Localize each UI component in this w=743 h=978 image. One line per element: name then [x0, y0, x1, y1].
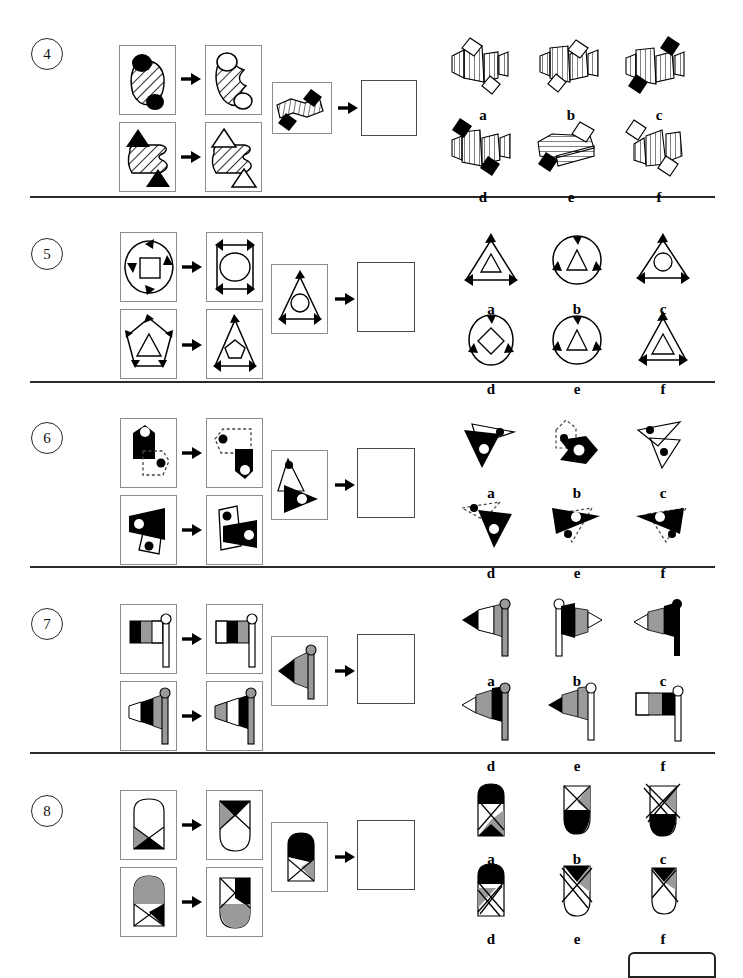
p4-option-e-label: e	[532, 189, 610, 206]
p7-option-e-figure	[538, 679, 616, 757]
p6-option-e[interactable]: e	[538, 486, 616, 582]
p7-example2-input	[120, 681, 177, 751]
p5-arrow-2	[181, 336, 203, 354]
p5-example1-input	[120, 232, 177, 302]
p6-arrow-1	[181, 444, 203, 462]
p4-option-e[interactable]: e	[532, 110, 610, 206]
p6-arrow-2	[181, 521, 203, 539]
p7-option-b[interactable]: b	[538, 594, 616, 690]
question-number-5: 5	[31, 238, 63, 270]
p5-example1-output	[206, 232, 263, 302]
p5-option-d-label: d	[452, 381, 530, 398]
question-number-7: 7	[31, 608, 63, 640]
p8-arrow-3	[334, 848, 356, 866]
p5-option-e-label: e	[538, 381, 616, 398]
p8-option-d-label: d	[452, 931, 530, 948]
p8-option-d[interactable]: d	[452, 852, 530, 948]
p7-option-d-figure	[452, 679, 530, 757]
p5-arrow-1	[181, 258, 203, 276]
p8-option-f-label: f	[624, 931, 702, 948]
p8-option-c-figure	[624, 772, 702, 850]
p5-option-a-figure	[452, 222, 530, 300]
p6-option-f-label: f	[624, 565, 702, 582]
p4-option-c-figure	[620, 28, 698, 106]
p4-example1-input	[119, 45, 176, 115]
p7-option-e[interactable]: e	[538, 679, 616, 775]
p6-example1-output	[206, 418, 263, 488]
p6-option-c-figure	[624, 406, 702, 484]
p5-option-f-label: f	[624, 381, 702, 398]
p7-option-f-figure	[624, 679, 702, 757]
p6-example1-input	[120, 418, 177, 488]
p8-example1-output	[206, 790, 263, 860]
p4-arrow-1	[180, 70, 202, 88]
p6-option-e-figure	[538, 486, 616, 564]
p4-example2-input	[119, 122, 176, 192]
p6-arrow-3	[334, 476, 356, 494]
p8-option-e-figure	[538, 852, 616, 930]
p5-option-f[interactable]: f	[624, 302, 702, 398]
p5-arrow-3	[334, 290, 356, 308]
question-number-4: 4	[31, 38, 63, 70]
p8-option-f-figure	[624, 852, 702, 930]
p4-arrow-3	[337, 99, 359, 117]
p4-option-a-figure	[444, 28, 522, 106]
p8-option-a-figure	[452, 772, 530, 850]
p8-option-d-figure	[452, 852, 530, 930]
p8-example1-input	[120, 790, 177, 860]
p7-option-d[interactable]: d	[452, 679, 530, 775]
p7-option-a[interactable]: a	[452, 594, 530, 690]
p8-arrow-1	[181, 816, 203, 834]
p4-option-d[interactable]: d	[444, 110, 522, 206]
p7-option-c[interactable]: c	[624, 594, 702, 690]
p4-option-f[interactable]: f	[620, 110, 698, 206]
p4-option-f-label: f	[620, 189, 698, 206]
p5-option-e-figure	[538, 302, 616, 380]
p8-answer-blank[interactable]	[357, 820, 415, 890]
p8-option-e[interactable]: e	[538, 852, 616, 948]
p6-option-f-figure	[624, 486, 702, 564]
row-separator-1	[30, 196, 715, 198]
p4-option-f-figure	[620, 110, 698, 188]
p6-option-e-label: e	[538, 565, 616, 582]
p5-option-d[interactable]: d	[452, 302, 530, 398]
p7-option-c-figure	[624, 594, 702, 672]
p5-example2-output	[206, 309, 263, 379]
p5-option-b-figure	[538, 222, 616, 300]
p8-option-f[interactable]: f	[624, 852, 702, 948]
p8-example2-output	[206, 867, 263, 937]
p4-problem-figure	[272, 82, 332, 134]
p5-example2-input	[120, 309, 177, 379]
p7-answer-blank[interactable]	[357, 634, 415, 704]
p6-option-f[interactable]: f	[624, 486, 702, 582]
p4-arrow-2	[180, 148, 202, 166]
p6-problem-figure	[271, 450, 328, 520]
p7-option-f[interactable]: f	[624, 679, 702, 775]
p6-example2-input	[120, 495, 177, 565]
p4-answer-blank[interactable]	[361, 80, 417, 136]
p6-answer-blank[interactable]	[357, 448, 415, 518]
p5-option-f-figure	[624, 302, 702, 380]
p4-example2-output	[205, 122, 262, 192]
p7-example2-output	[206, 681, 263, 751]
question-number-8: 8	[31, 795, 63, 827]
p5-option-e[interactable]: e	[538, 302, 616, 398]
p7-example1-output	[206, 604, 263, 674]
p4-option-b-figure	[532, 28, 610, 106]
p8-option-e-label: e	[538, 931, 616, 948]
p8-example2-input	[120, 867, 177, 937]
p7-problem-figure	[271, 636, 328, 706]
p4-option-d-label: d	[444, 189, 522, 206]
p5-problem-figure	[271, 264, 328, 334]
page-footer-tab	[628, 952, 716, 978]
p5-option-c-figure	[624, 222, 702, 300]
p5-option-d-figure	[452, 302, 530, 380]
p8-arrow-2	[181, 893, 203, 911]
p8-option-b-figure	[538, 772, 616, 850]
p6-example2-output	[206, 495, 263, 565]
p6-option-d[interactable]: d	[452, 486, 530, 582]
p4-option-e-figure	[532, 110, 610, 188]
p5-answer-blank[interactable]	[357, 262, 415, 332]
p7-arrow-3	[334, 662, 356, 680]
